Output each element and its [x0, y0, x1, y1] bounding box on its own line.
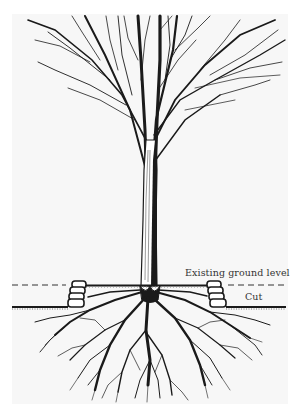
existing-ground-level-label: Existing ground level [185, 267, 290, 278]
tree-cut-diagram [0, 0, 301, 419]
cut-label: Cut [245, 291, 263, 302]
left-retaining-wall-icon [68, 281, 86, 307]
right-retaining-wall-icon [207, 281, 226, 307]
preserved-grade-surface [86, 286, 207, 288]
cut-ground-line [12, 307, 286, 309]
